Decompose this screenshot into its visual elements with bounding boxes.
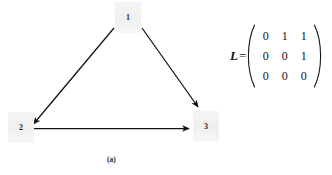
matrix-cell-r3c1: 0 xyxy=(263,70,269,82)
matrix-expression: L = 0 1 1 0 0 1 0 0 0 xyxy=(230,22,322,90)
matrix-cell-r2c3: 1 xyxy=(301,50,307,62)
matrix-cell-r3c3: 0 xyxy=(301,70,307,82)
edge-1-to-3 xyxy=(142,28,198,107)
graph-node-1-label: 1 xyxy=(126,14,130,22)
matrix-cell-r1c2: 1 xyxy=(282,30,288,42)
graph-edges-svg xyxy=(0,0,228,175)
panel-b-matrix: L = 0 1 1 0 0 1 0 0 0 (b) xyxy=(228,0,332,175)
edge-1-to-2 xyxy=(34,28,115,124)
matrix-cell-r1c3: 1 xyxy=(301,30,307,42)
matrix-grid: 0 1 1 0 0 1 0 0 0 xyxy=(256,26,313,86)
panel-a-graph: 1 2 3 (a) xyxy=(0,0,228,175)
graph-node-2: 2 xyxy=(8,112,34,143)
matrix-cell-r3c2: 0 xyxy=(282,70,288,82)
graph-node-1: 1 xyxy=(115,2,141,33)
graph-node-3: 3 xyxy=(193,111,219,142)
matrix-cell-r2c1: 0 xyxy=(263,50,269,62)
matrix-name-label: L xyxy=(230,48,238,64)
matrix-cell-r2c2: 0 xyxy=(282,50,288,62)
matrix-left-parenthesis xyxy=(247,24,256,88)
panel-a-caption: (a) xyxy=(107,155,116,164)
matrix-cell-r1c1: 0 xyxy=(263,30,269,42)
graph-node-3-label: 3 xyxy=(204,123,208,131)
matrix-equals-sign: = xyxy=(239,48,246,64)
matrix-right-parenthesis xyxy=(313,24,322,88)
graph-node-2-label: 2 xyxy=(19,124,23,132)
figure-container: 1 2 3 (a) L = 0 1 1 0 0 1 0 xyxy=(0,0,332,175)
